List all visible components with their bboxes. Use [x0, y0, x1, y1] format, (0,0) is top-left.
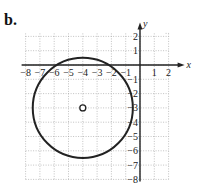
x-tick-label: −8: [20, 67, 31, 78]
coordinate-plot: xy−8−7−6−5−4−3−2−11221−1−2−3−4−5−6−7−8: [0, 0, 197, 194]
y-tick-label: −5: [127, 131, 138, 142]
y-tick-label: −6: [127, 145, 138, 156]
x-tick-label: −3: [92, 67, 103, 78]
x-tick-label: −5: [63, 67, 74, 78]
y-tick-label: 1: [133, 45, 138, 56]
x-tick-label: 1: [152, 67, 157, 78]
y-tick-label: −8: [127, 174, 138, 185]
center-point: [80, 105, 86, 111]
x-axis-label: x: [186, 59, 192, 70]
x-tick-label: 2: [166, 67, 171, 78]
y-axis-label: y: [142, 18, 148, 29]
y-tick-label: −1: [127, 74, 138, 85]
x-tick-label: −4: [77, 67, 88, 78]
y-tick-label: −7: [127, 160, 138, 171]
x-axis-arrow-icon: [178, 63, 185, 68]
y-axis-arrow-icon: [138, 22, 143, 29]
y-tick-label: 2: [133, 31, 138, 42]
